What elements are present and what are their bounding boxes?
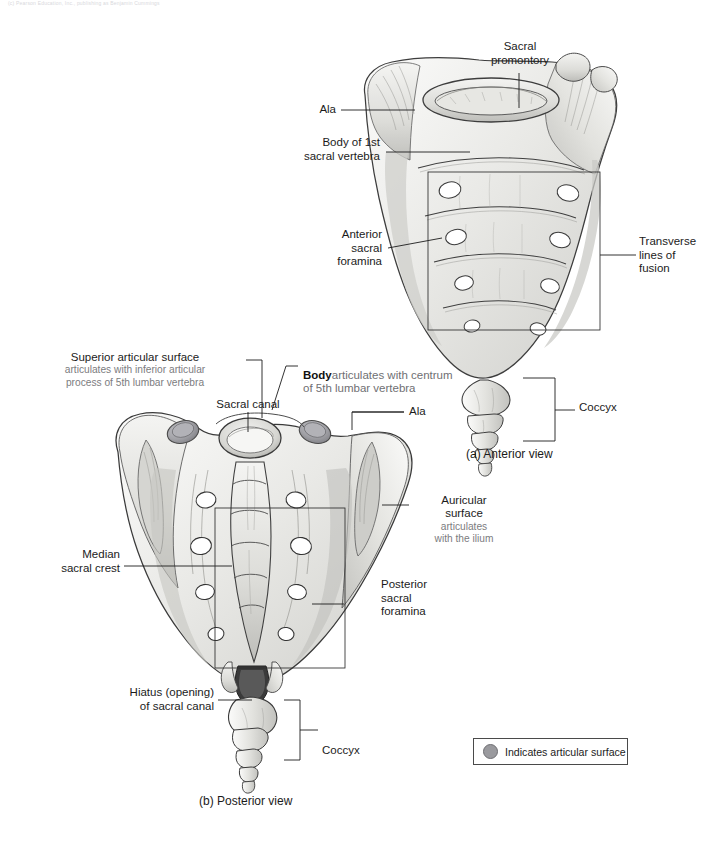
label-ala-anterior: Ala xyxy=(240,103,336,117)
label-superior-articular-surface-title: Superior articular surface xyxy=(71,351,199,363)
coccyx-posterior-art xyxy=(229,697,277,793)
label-coccyx-posterior: Coccyx xyxy=(322,744,402,758)
label-hiatus-of-sacral-canal: Hiatus (opening) of sacral canal xyxy=(50,686,214,713)
label-superior-articular-surface-detail: articulates with inferior articular proc… xyxy=(24,364,246,389)
articular-surface-swatch-icon xyxy=(483,744,498,759)
label-superior-articular-surface: Superior articular surface articulates w… xyxy=(24,337,246,403)
label-auricular-surface-title: Auricular surface xyxy=(441,494,486,520)
label-body-of-1st-sacral-vertebra: Body of 1st sacral vertebra xyxy=(200,136,380,163)
label-median-sacral-crest: Median sacral crest xyxy=(20,548,120,575)
label-posterior-sacral-foramina: Posterior sacral foramina xyxy=(381,578,473,619)
caption-anterior-view: (a) Anterior view xyxy=(466,447,553,461)
legend-text: Indicates articular surface xyxy=(505,746,626,758)
label-body-articular: Bodyarticulates with centrum of 5th lumb… xyxy=(303,355,499,396)
label-ala-posterior: Ala xyxy=(409,405,469,419)
label-body-articular-title: Body xyxy=(303,369,332,381)
label-coccyx-anterior: Coccyx xyxy=(579,401,659,415)
label-auricular-surface-detail: articulates with the ilium xyxy=(414,521,514,546)
sacrum-illustration xyxy=(0,0,723,853)
label-transverse-lines-of-fusion: Transverse lines of fusion xyxy=(639,235,723,276)
label-sacral-promontory: Sacral promontory xyxy=(472,40,568,67)
label-sacral-canal: Sacral canal xyxy=(200,398,296,412)
label-anterior-sacral-foramina: Anterior sacral foramina xyxy=(268,228,382,269)
caption-posterior-view: (b) Posterior view xyxy=(199,794,292,808)
label-auricular-surface: Auricular surface articulates with the i… xyxy=(414,480,514,559)
legend-box: Indicates articular surface xyxy=(473,738,628,765)
figure-page: (c) Pearson Education, Inc., publishing … xyxy=(0,0,723,853)
